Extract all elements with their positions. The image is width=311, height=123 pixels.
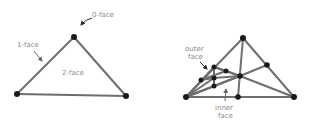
arrow-one-face-icon: [34, 51, 42, 61]
vertex-bottom-right: [291, 94, 297, 100]
edge-center-to-right-mid: [240, 65, 267, 76]
vertex-cluster-3: [199, 78, 204, 83]
arrow-zero-face-icon: [81, 18, 92, 25]
vertex-bottom-left: [183, 94, 189, 100]
arrow-inner-face-icon: [225, 89, 226, 101]
vertex-right-mid: [264, 62, 270, 68]
vertex-top: [240, 35, 246, 41]
edge-bottom: [17, 94, 126, 96]
left-triangle-diagram: 0-face 1-face 2-face: [14, 11, 129, 99]
vertex-bottom-right: [123, 93, 129, 99]
label-zero-face: 0-face: [92, 11, 114, 19]
vertex-cluster-5: [212, 84, 217, 89]
vertex-bottom-mid: [235, 94, 241, 100]
diagram-canvas: 0-face 1-face 2-face: [0, 0, 311, 123]
vertex-cluster-2: [224, 69, 229, 74]
label-outer-face-line2: face: [188, 53, 203, 61]
label-one-face: 1-face: [17, 41, 39, 49]
right-subdivided-diagram: outer face inner face: [183, 35, 297, 120]
vertex-cluster-1: [212, 65, 217, 70]
vertex-top: [71, 34, 77, 40]
vertex-center: [237, 73, 243, 79]
vertex-bottom-left: [14, 91, 20, 97]
vertex-cluster-4: [212, 76, 217, 81]
label-outer-face-line1: outer: [185, 45, 204, 53]
label-two-face: 2-face: [62, 69, 84, 77]
label-inner-face-line2: face: [218, 112, 233, 120]
edge-right: [74, 37, 126, 96]
label-inner-face-line1: inner: [215, 104, 233, 112]
arrow-outer-face-icon: [200, 62, 207, 69]
edge-top-to-bottom-mid: [238, 38, 243, 97]
